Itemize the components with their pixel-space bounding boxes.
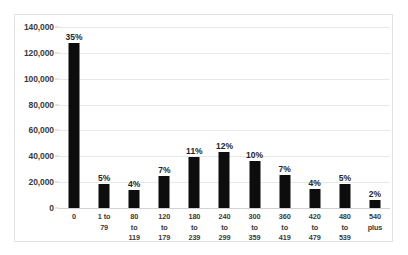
- bar[interactable]: [249, 161, 260, 208]
- bar[interactable]: [189, 157, 200, 208]
- bar-group: 11%180 to 239: [179, 27, 209, 208]
- y-axis-tick-label: 100,000: [24, 74, 54, 84]
- bar-group: 12%240 to 299: [209, 27, 239, 208]
- bar[interactable]: [279, 175, 290, 208]
- bar-group: 35%0: [59, 27, 89, 208]
- bar-value-label: 2%: [369, 189, 381, 199]
- bar[interactable]: [339, 184, 350, 208]
- bar-value-label: 7%: [279, 164, 291, 174]
- bar-value-label: 5%: [339, 173, 351, 183]
- x-axis-tick-label: 0: [72, 212, 76, 223]
- y-axis-tick-label: 60,000: [29, 125, 54, 135]
- x-axis-tick-label: 420 to 479: [307, 212, 322, 244]
- axis-baseline: [59, 208, 390, 209]
- bar-value-label: 7%: [158, 165, 170, 175]
- bar-value-label: 5%: [98, 173, 110, 183]
- x-axis-tick-label: 1 to 79: [97, 212, 112, 233]
- bar-value-label: 12%: [216, 141, 233, 151]
- bar[interactable]: [159, 176, 170, 208]
- y-axis-tick-label: 0: [49, 203, 54, 213]
- bar-value-label: 4%: [309, 178, 321, 188]
- y-axis-tick-label: 120,000: [24, 48, 54, 58]
- bar-group: 2%540 plus: [360, 27, 390, 208]
- bar[interactable]: [69, 43, 80, 208]
- bar-value-label: 11%: [186, 146, 203, 156]
- x-axis-tick-label: 360 to 419: [277, 212, 292, 244]
- bar[interactable]: [99, 184, 110, 208]
- x-axis-tick-label: 120 to 179: [157, 212, 172, 244]
- x-axis-tick-label: 480 to 539: [337, 212, 352, 244]
- bar-group: 10%300 to 359: [240, 27, 270, 208]
- y-axis-tick-label: 40,000: [29, 151, 54, 161]
- bar[interactable]: [129, 190, 140, 208]
- bar[interactable]: [309, 189, 320, 208]
- bar-value-label: 10%: [246, 150, 263, 160]
- plot-area: 020,00040,00060,00080,000100,000120,0001…: [59, 27, 390, 208]
- x-axis-tick-label: 240 to 299: [217, 212, 232, 244]
- bar-series: 35%05%1 to 794%80 to 1197%120 to 17911%1…: [59, 27, 390, 208]
- y-axis-tick-label: 80,000: [29, 100, 54, 110]
- x-axis-tick-label: 540 plus: [368, 212, 383, 233]
- bar[interactable]: [369, 200, 380, 208]
- bar-group: 5%480 to 539: [330, 27, 360, 208]
- bar-group: 4%420 to 479: [300, 27, 330, 208]
- bar-value-label: 35%: [66, 32, 83, 42]
- bar-group: 7%120 to 179: [149, 27, 179, 208]
- x-axis-tick-label: 180 to 239: [187, 212, 202, 244]
- x-axis-tick-label: 80 to 119: [127, 212, 142, 244]
- x-axis-tick-label: 300 to 359: [247, 212, 262, 244]
- bar[interactable]: [219, 152, 230, 208]
- bar-group: 7%360 to 419: [270, 27, 300, 208]
- y-axis-tick-label: 140,000: [24, 22, 54, 32]
- bar-value-label: 4%: [128, 179, 140, 189]
- bar-group: 4%80 to 119: [119, 27, 149, 208]
- bar-group: 5%1 to 79: [89, 27, 119, 208]
- bar-chart: 020,00040,00060,00080,000100,000120,0001…: [14, 14, 393, 242]
- y-axis-tick-label: 20,000: [29, 177, 54, 187]
